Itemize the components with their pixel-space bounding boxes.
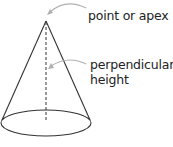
height-label-line2: height <box>90 73 129 87</box>
apex-label: point or apex <box>88 9 168 23</box>
cone-right-side <box>46 21 90 120</box>
cone-left-side <box>2 21 46 120</box>
apex-arrow <box>50 4 86 12</box>
height-arrow <box>51 60 86 66</box>
height-arrowhead-icon <box>48 63 54 69</box>
height-label-line1: perpendicular <box>90 58 173 72</box>
